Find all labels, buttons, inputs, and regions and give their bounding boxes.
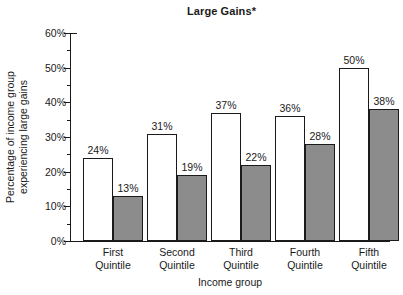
- y-minor-tick-55: [67, 50, 71, 51]
- bar-fifth-quintile-gray: [369, 109, 399, 241]
- chart-title: Large Gains*: [0, 5, 403, 17]
- bar-third-quintile-gray: [241, 165, 271, 241]
- y-tick-label-20: 20%: [26, 167, 66, 177]
- category-label-fifth-quintile: Fifth Quintile: [334, 246, 403, 271]
- y-minor-tick-25: [67, 154, 71, 155]
- x-axis-title: Income group: [70, 276, 390, 288]
- category-label-third-quintile: Third Quintile: [206, 246, 276, 271]
- y-minor-tick-45: [67, 85, 71, 86]
- bar-value-fourth-quintile-white: 36%: [275, 103, 305, 114]
- bar-value-first-quintile-white: 24%: [83, 145, 113, 156]
- y-tick-label-50: 50%: [26, 63, 66, 73]
- bar-first-quintile-white: [83, 158, 113, 241]
- bar-value-first-quintile-gray: 13%: [113, 183, 143, 194]
- bar-value-second-quintile-gray: 19%: [177, 162, 207, 173]
- y-minor-tick-15: [67, 189, 71, 190]
- bar-fifth-quintile-white: [339, 68, 369, 241]
- y-tick-label-0: 0%: [26, 236, 66, 246]
- y-tick-label-40: 40%: [26, 97, 66, 107]
- bar-first-quintile-gray: [113, 196, 143, 241]
- x-axis-line: [70, 241, 390, 242]
- bar-fourth-quintile-white: [275, 116, 305, 241]
- bar-value-fifth-quintile-white: 50%: [339, 55, 369, 66]
- category-label-second-quintile: Second Quintile: [142, 246, 212, 271]
- bar-fourth-quintile-gray: [305, 144, 335, 241]
- y-axis-top-cap: [70, 33, 77, 34]
- bar-second-quintile-gray: [177, 175, 207, 241]
- bar-value-third-quintile-white: 37%: [211, 100, 241, 111]
- y-minor-tick-35: [67, 120, 71, 121]
- y-axis-title-line-1: Percentage of income group: [4, 33, 17, 241]
- y-minor-tick-5: [67, 224, 71, 225]
- bar-second-quintile-white: [147, 134, 177, 241]
- bar-value-second-quintile-white: 31%: [147, 121, 177, 132]
- category-label-fourth-quintile: Fourth Quintile: [270, 246, 340, 271]
- bar-value-third-quintile-gray: 22%: [241, 152, 271, 163]
- bar-third-quintile-white: [211, 113, 241, 241]
- bar-value-fourth-quintile-gray: 28%: [305, 131, 335, 142]
- y-tick-label-30: 30%: [26, 132, 66, 142]
- category-label-first-quintile: First Quintile: [78, 246, 148, 271]
- bar-value-fifth-quintile-gray: 38%: [369, 96, 399, 107]
- bar-chart: Large Gains* Percentage of income group …: [0, 0, 403, 295]
- y-tick-label-10: 10%: [26, 201, 66, 211]
- y-tick-label-60: 60%: [26, 28, 66, 38]
